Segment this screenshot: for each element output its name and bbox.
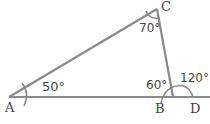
triangle-diagram: A B C D 50° 70° 60° 120° <box>0 0 210 124</box>
angle-label-b-exterior: 120° <box>180 71 209 85</box>
line-ac <box>9 9 157 97</box>
point-label-b: B <box>155 101 165 116</box>
point-label-a: A <box>4 100 15 115</box>
point-label-c: C <box>161 0 171 14</box>
angle-label-a: 50° <box>42 79 65 94</box>
point-label-d: D <box>190 101 200 116</box>
angle-label-b-interior: 60° <box>146 78 167 92</box>
angle-label-c: 70° <box>139 21 160 35</box>
